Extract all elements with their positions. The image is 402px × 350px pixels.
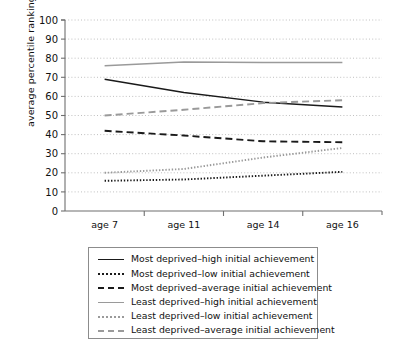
- legend-item[interactable]: Most deprived–high initial achievement: [89, 252, 317, 266]
- chart-legend: Most deprived–high initial achievementMo…: [88, 247, 318, 339]
- x-tick-label: age 16: [326, 219, 359, 230]
- legend-line-swatch-icon: [98, 311, 124, 321]
- data-series-group: [105, 62, 343, 181]
- legend-line-swatch-icon: [98, 325, 124, 335]
- legend-item-label: Most deprived–average initial achievemen…: [131, 283, 332, 292]
- y-tick-label: 40: [45, 129, 58, 140]
- x-tick-label: age 11: [167, 219, 200, 230]
- legend-item[interactable]: Most deprived–low initial achievement: [89, 266, 317, 280]
- legend-item-label: Least deprived–average initial achieveme…: [131, 325, 335, 334]
- legend-item-label: Most deprived–low initial achievement: [131, 269, 310, 278]
- legend-item-label: Least deprived–high initial achievement: [131, 297, 317, 306]
- x-tick-label: age 7: [91, 219, 118, 230]
- series-line: [105, 148, 343, 173]
- series-line: [105, 131, 343, 142]
- y-tick-label: 10: [45, 187, 58, 198]
- legend-item-label: Most deprived–high initial achievement: [131, 254, 314, 263]
- legend-item[interactable]: Least deprived–average initial achieveme…: [89, 323, 317, 337]
- figure: average percentile ranking 0102030405060…: [0, 0, 402, 350]
- series-line: [105, 62, 343, 66]
- y-tick-label: 30: [45, 148, 58, 159]
- series-line: [105, 172, 343, 181]
- x-axis-labels: age 7age 11age 14age 16: [91, 219, 359, 230]
- line-chart: average percentile ranking 0102030405060…: [0, 0, 402, 240]
- plot-canvas: 0102030405060708090100 age 7age 11age 14…: [0, 0, 402, 240]
- legend-line-swatch-icon: [98, 297, 124, 307]
- legend-item-label: Least deprived–low initial achievement: [131, 311, 312, 320]
- y-tick-label: 100: [39, 15, 58, 26]
- legend-line-swatch-icon: [98, 254, 124, 264]
- series-line: [105, 100, 343, 115]
- y-tick-label: 70: [45, 72, 58, 83]
- y-tick-label: 90: [45, 34, 58, 45]
- y-tick-label: 20: [45, 167, 58, 178]
- y-axis-ticks: 0102030405060708090100: [39, 15, 65, 217]
- y-tick-label: 60: [45, 91, 58, 102]
- x-tick-label: age 14: [247, 219, 280, 230]
- y-tick-label: 0: [52, 206, 58, 217]
- axis-lines: [61, 20, 382, 215]
- legend-item[interactable]: Most deprived–average initial achievemen…: [89, 280, 317, 294]
- legend-line-swatch-icon: [98, 282, 124, 292]
- legend-line-swatch-icon: [98, 268, 124, 278]
- x-axis-ticks: [144, 211, 303, 216]
- legend-item[interactable]: Least deprived–high initial achievement: [89, 295, 317, 309]
- y-tick-label: 50: [45, 110, 58, 121]
- y-tick-label: 80: [45, 53, 58, 64]
- series-line: [105, 79, 343, 107]
- legend-item[interactable]: Least deprived–low initial achievement: [89, 309, 317, 323]
